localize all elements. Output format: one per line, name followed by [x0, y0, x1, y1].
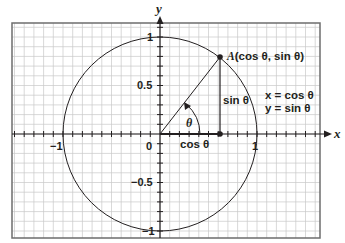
x-tick-label-0: 0: [146, 140, 152, 152]
x-axis-arrow-icon: [324, 131, 332, 138]
sin-theta-label: sin θ: [223, 94, 249, 106]
y-axis-label: y: [154, 1, 162, 16]
y-axis-arrow-icon: [157, 16, 164, 24]
cos-theta-label: cos θ: [180, 138, 209, 150]
x-axis-label: x: [333, 126, 341, 141]
point-A-coords: (cos θ, sin θ): [235, 50, 304, 62]
theta-label: θ: [186, 116, 193, 130]
y-tick-label-neg0.5: −0.5: [131, 176, 153, 188]
foot-point-marker: [217, 131, 223, 137]
equation-x: x = cos θ: [265, 89, 314, 101]
point-A-marker: [217, 54, 223, 60]
unit-circle-diagram: y x −1 0 1 1 0.5 −0.5 −1 A(cos θ, sin θ)…: [0, 0, 345, 243]
y-tick-label-0.5: 0.5: [137, 79, 152, 91]
y-tick-label-1: 1: [147, 31, 153, 43]
point-A-name: A: [226, 50, 235, 62]
x-tick-label-neg1: −1: [50, 140, 63, 152]
y-tick-label-neg1: −1: [142, 225, 155, 237]
point-A-label: A(cos θ, sin θ): [226, 50, 304, 62]
x-tick-label-1: 1: [252, 140, 258, 152]
angle-arrow-icon: [184, 102, 191, 110]
equation-y: y = sin θ: [265, 102, 311, 114]
